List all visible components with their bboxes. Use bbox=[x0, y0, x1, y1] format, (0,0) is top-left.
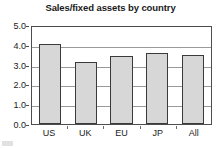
plot-area bbox=[31, 26, 212, 125]
scan-artifact bbox=[2, 141, 13, 146]
y-tick-label: 5.0 bbox=[13, 21, 26, 31]
x-tick-label-jp: JP bbox=[140, 128, 176, 138]
x-tick-label-all: All bbox=[176, 128, 212, 138]
y-tick-mark bbox=[26, 26, 29, 27]
x-tick-label-eu: EU bbox=[103, 128, 139, 138]
y-tick-label: 1.0 bbox=[13, 100, 26, 110]
bar-eu[interactable] bbox=[110, 56, 132, 124]
y-tick-label: 4.0 bbox=[13, 41, 26, 51]
bar-chart-figure: Sales/fixed assets by country 0.01.02.03… bbox=[0, 0, 221, 148]
y-tick-label: 0.0 bbox=[13, 120, 26, 130]
y-axis: 0.01.02.03.04.05.0 bbox=[0, 26, 29, 125]
y-tick-mark bbox=[26, 105, 29, 106]
x-tick-label-us: US bbox=[31, 128, 67, 138]
bar-us[interactable] bbox=[39, 44, 61, 124]
y-tick-mark bbox=[26, 85, 29, 86]
x-tick-label-uk: UK bbox=[67, 128, 103, 138]
bar-all[interactable] bbox=[182, 55, 204, 124]
chart-title: Sales/fixed assets by country bbox=[0, 2, 221, 13]
x-axis: USUKEUJPAll bbox=[31, 128, 212, 138]
y-tick-mark bbox=[26, 66, 29, 67]
bar-series bbox=[32, 27, 211, 124]
y-tick-mark bbox=[26, 125, 29, 126]
bar-slot bbox=[175, 27, 211, 124]
bar-slot bbox=[139, 27, 175, 124]
bar-jp[interactable] bbox=[146, 53, 168, 124]
y-tick-mark bbox=[26, 46, 29, 47]
y-tick-label: 2.0 bbox=[13, 80, 26, 90]
bar-slot bbox=[104, 27, 140, 124]
bar-uk[interactable] bbox=[75, 62, 97, 124]
bar-slot bbox=[68, 27, 104, 124]
bar-slot bbox=[32, 27, 68, 124]
y-tick-label: 3.0 bbox=[13, 61, 26, 71]
